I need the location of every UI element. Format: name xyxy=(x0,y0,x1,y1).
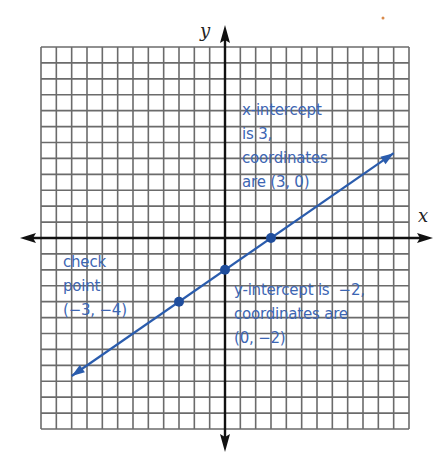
y-intercept-annotation: y-intercept is −2, coordinates are (0, −… xyxy=(234,278,365,350)
point-check-point xyxy=(174,297,184,307)
y-axis-label: y xyxy=(200,20,210,41)
axes xyxy=(20,25,433,452)
check-point-annotation: check point (−3, −4) xyxy=(63,250,127,322)
point-x-intercept xyxy=(266,233,276,243)
x-intercept-annotation: x-intercept is 3, coordinates are (3, 0) xyxy=(242,98,328,194)
coordinate-plane xyxy=(0,0,448,468)
line-arrowhead-start-icon xyxy=(72,365,85,376)
x-axis-label: x xyxy=(418,205,428,226)
decorative-speck xyxy=(382,17,385,20)
point-y-intercept xyxy=(220,265,230,275)
